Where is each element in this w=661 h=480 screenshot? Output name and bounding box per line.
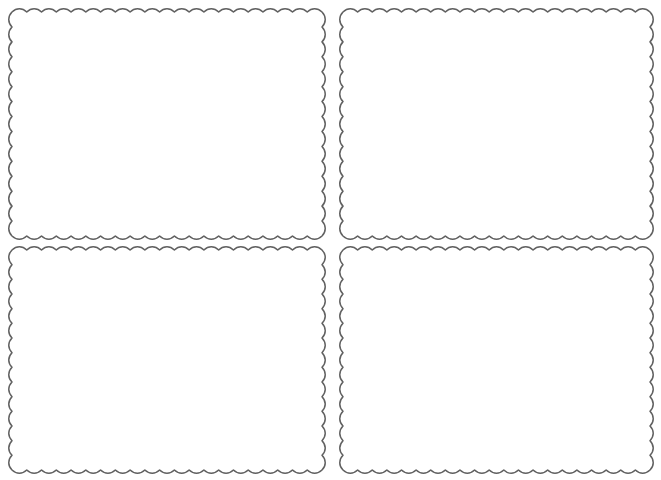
canvas-root	[0, 0, 661, 480]
wavy-frames-group	[0, 0, 661, 480]
frame-top-right	[340, 9, 653, 239]
frame-bottom-right	[340, 247, 653, 473]
frame-top-left	[9, 9, 325, 239]
frame-bottom-left	[9, 247, 325, 473]
